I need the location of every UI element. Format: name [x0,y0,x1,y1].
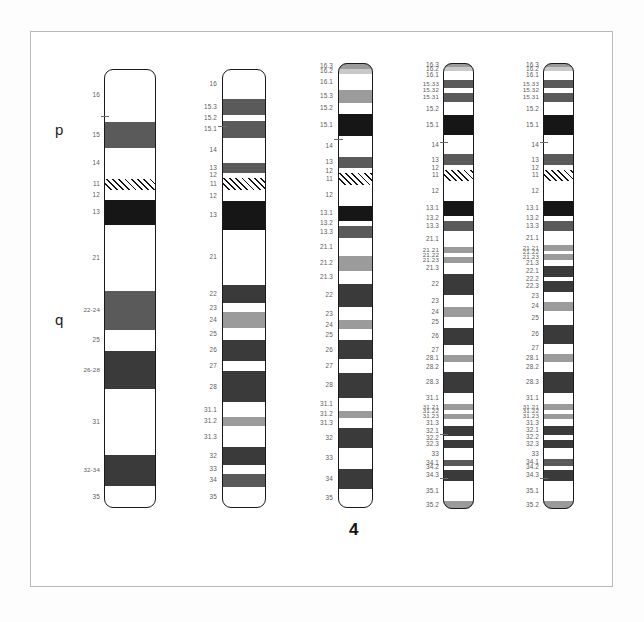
band-label-11: 11 [398,172,439,178]
chromosome-level-1[interactable] [104,69,156,508]
band-label-13.1: 13.1 [300,210,333,216]
chromosome-level-3[interactable] [338,63,373,508]
band-32.1 [543,426,574,435]
band-27 [443,345,474,354]
band-label-26: 26 [182,347,217,353]
band-label-15.2: 15.2 [300,105,333,111]
band-label-31.3: 31.3 [398,420,439,426]
band-34.3 [443,470,474,482]
band-12 [104,190,156,200]
chromosome-level-2[interactable] [222,69,266,508]
band-15.3 [338,90,373,102]
band-label-21.1: 21.1 [498,235,539,241]
chromosome-body [443,63,474,509]
band-15.1 [543,115,574,135]
band-label-14: 14 [498,142,539,148]
band-14 [443,135,474,154]
band-22 [338,284,373,307]
band-22.1 [543,266,574,276]
band-31.1 [543,393,574,404]
band-26 [338,340,373,359]
band-label-13: 13 [398,157,439,163]
band-label-28.2: 28.2 [398,364,439,370]
band-33 [338,448,373,469]
band-label-31: 31 [60,419,100,425]
band-label-23: 23 [300,311,333,317]
band-label-12: 12 [498,188,539,194]
band-13.1 [443,201,474,216]
band-25 [104,330,156,351]
band-32-34 [104,455,156,486]
chromosome-level-4[interactable] [443,63,474,509]
band-label-35.2: 35.2 [498,502,539,508]
band-22.3 [543,281,574,291]
leader-line-11 [334,139,343,140]
band-13 [222,201,266,229]
band-label-14: 14 [300,143,333,149]
band-14 [222,138,266,163]
band-15.1 [443,115,474,135]
band-24 [338,320,373,329]
chromosome-level-5[interactable] [543,63,574,509]
band-label-23: 23 [398,298,439,304]
band-23 [338,307,373,320]
band-label-33: 33 [300,455,333,461]
band-label-22.3: 22.3 [498,283,539,289]
band-label-23: 23 [182,305,217,311]
band-13.3 [543,221,574,231]
band-13 [443,154,474,165]
band-32 [338,428,373,448]
band-11 [222,178,266,190]
leader-line-11 [101,116,109,117]
ideogram-figure: 1615141112132122-242526-283132-34351615.… [0,0,644,622]
band-13.1 [543,201,574,216]
band-label-31.3: 31.3 [498,420,539,426]
band-25 [338,330,373,341]
band-31.1 [443,393,474,404]
band-label-25: 25 [398,319,439,325]
band-13 [222,163,266,173]
band-28.2 [443,362,474,372]
band-label-34.2: 34.2 [498,464,539,470]
band-21 [222,230,266,285]
band-label-35: 35 [182,494,217,500]
band-label-14: 14 [60,160,100,166]
band-23 [543,292,574,302]
band-28 [222,371,266,402]
band-label-13: 13 [182,165,217,171]
band-label-34.3: 34.3 [398,472,439,478]
band-14 [543,135,574,154]
band-27 [338,359,373,372]
band-label-12: 12 [60,192,100,198]
band-12 [443,181,474,201]
band-label-31.3: 31.3 [300,420,333,426]
band-13.3 [338,226,373,238]
band-label-21.1: 21.1 [300,244,333,250]
band-label-15.2: 15.2 [398,106,439,112]
band-12 [222,190,266,201]
band-35 [104,486,156,508]
band-34.3 [543,470,574,482]
leader-line-11 [540,142,548,143]
band-28.2 [543,362,574,372]
band-31.2 [222,417,266,426]
band-label-32.3: 32.3 [398,441,439,447]
band-28.1 [443,355,474,362]
band-27 [543,344,574,354]
band-31.1 [222,402,266,417]
band-21.3 [443,263,474,274]
band-32.3 [443,440,474,448]
band-label-21.1: 21.1 [398,236,439,242]
band-26 [222,340,266,361]
band-13 [543,154,574,165]
band-label-16.2: 16.2 [300,68,333,74]
band-11 [338,173,373,185]
leader-line-34.2 [440,478,448,479]
band-34 [338,469,373,489]
band-label-24: 24 [300,322,333,328]
band-label-16.1: 16.1 [398,72,439,78]
band-label-15.3: 15.3 [182,104,217,110]
band-15.2 [443,102,474,115]
band-label-31.1: 31.1 [300,401,333,407]
band-label-31.3: 31.3 [182,434,217,440]
